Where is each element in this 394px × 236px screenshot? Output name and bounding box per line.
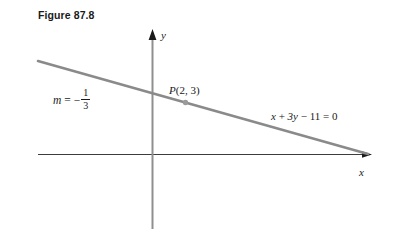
point-coords: (2, 3) [176,84,200,96]
slope-variable: m [53,94,61,106]
slope-denominator: 3 [81,100,90,111]
y-axis-label: y [161,29,166,41]
equation-term-3y: 3y [288,110,298,122]
equation-term-x: x [271,110,276,122]
x-axis-label: x [359,166,364,178]
equation-equals-zero: = 0 [323,110,337,122]
equation-minus-11: − 11 [301,110,321,122]
slope-label: m = − 1 3 [53,88,90,111]
slope-fraction: 1 3 [81,88,90,111]
slope-equals: = [64,94,71,106]
point-name: P [169,84,176,96]
equation-plus: + [279,110,285,122]
y-axis-arrow-icon [149,29,157,40]
point-label: P(2, 3) [169,84,200,96]
point-marker-p [183,100,188,105]
slope-numerator: 1 [81,88,90,99]
equation-label: x + 3y − 11 = 0 [271,110,338,122]
figure-container: Figure 87.8 m = − 1 3 P(2, 3) x + 3y − 1… [0,0,394,236]
slope-sign: − [74,94,81,106]
